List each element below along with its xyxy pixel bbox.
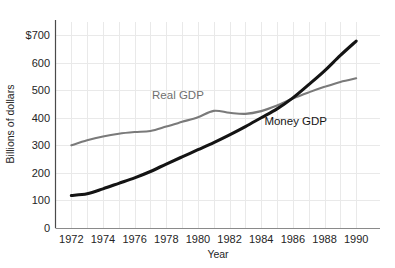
chart-background bbox=[0, 0, 395, 268]
x-axis-tick-label: 1976 bbox=[122, 233, 146, 245]
y-axis-tick-label: 100 bbox=[32, 194, 50, 206]
y-axis-tick-label: 200 bbox=[32, 167, 50, 179]
x-axis-tick-label: 1990 bbox=[344, 233, 368, 245]
y-axis-tick-label: 0 bbox=[44, 222, 50, 234]
y-axis-tick-label: 300 bbox=[32, 139, 50, 151]
x-axis-title: Year bbox=[207, 248, 229, 260]
series-label-real-gdp: Real GDP bbox=[152, 89, 204, 101]
x-axis-tick-label: 1980 bbox=[186, 233, 210, 245]
series-label-money-gdp: Money GDP bbox=[264, 115, 327, 127]
x-axis-tick-label: 1978 bbox=[154, 233, 178, 245]
x-axis-tick-label: 1988 bbox=[312, 233, 336, 245]
x-axis-tick-label: 1982 bbox=[217, 233, 241, 245]
chart-canvas: 0100200300400500600$700 1972197419761978… bbox=[0, 0, 395, 268]
y-axis-tick-label: 600 bbox=[32, 57, 50, 69]
x-axis-tick-label: 1972 bbox=[59, 233, 83, 245]
y-axis-tick-label: 500 bbox=[32, 84, 50, 96]
y-axis-tick-label: $700 bbox=[26, 29, 50, 41]
gdp-line-chart: 0100200300400500600$700 1972197419761978… bbox=[0, 0, 395, 268]
y-axis-tick-label: 400 bbox=[32, 112, 50, 124]
x-axis-tick-label: 1984 bbox=[249, 233, 273, 245]
x-axis-tick-label: 1986 bbox=[281, 233, 305, 245]
x-axis-tick-label: 1974 bbox=[91, 233, 115, 245]
y-axis-title: Billions of dollars bbox=[4, 85, 16, 164]
